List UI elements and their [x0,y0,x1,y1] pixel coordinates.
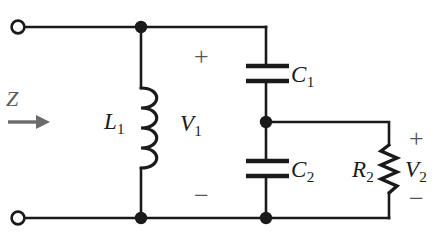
label-voltage-V2: V2 [405,158,427,181]
label-resistor-R2: R2 [352,158,374,181]
label-impedance-Z: Z [6,88,18,110]
polarity-v2-minus: − [409,186,424,212]
wire-output-top [266,122,389,145]
inductor-L1-symbol [141,88,157,168]
polarity-v1-plus: + [194,44,209,70]
circuit-diagram: Z L1 V1 C1 C2 R2 V2 + − + − [0,0,443,239]
label-inductor-L1: L1 [104,110,124,133]
label-capacitor-C2: C2 [291,158,314,181]
node-mid [260,116,272,128]
node-bottom-mid [260,212,272,224]
polarity-v1-minus: − [194,183,209,209]
capacitor-C2-symbol [246,161,289,176]
terminal-input-bottom [12,212,25,225]
polarity-v2-plus: + [409,126,424,152]
label-voltage-V1: V1 [180,112,202,135]
impedance-arrow-icon [8,115,50,129]
label-capacitor-C1: C1 [291,63,314,86]
circuit-schematic-canvas [0,0,443,239]
node-bottom-left [135,212,147,224]
resistor-R2-symbol [381,145,397,193]
node-top-left [135,21,147,33]
terminal-input-top [12,21,25,34]
capacitor-C1-symbol [246,66,289,81]
